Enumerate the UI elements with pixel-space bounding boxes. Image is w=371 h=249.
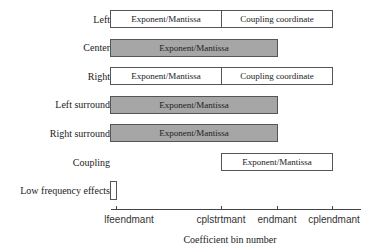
row-label-left-surround: Left surround [55, 95, 110, 114]
tick-endmant [277, 206, 278, 210]
left-coupling-coord-block: Coupling coordinate [221, 10, 333, 28]
tick-label-lfeendmant: lfeendmant [104, 214, 153, 225]
tick-label-cplendmant: cplendmant [308, 214, 360, 225]
row-label-right: Right [88, 67, 110, 86]
tick-lfeendmant [116, 206, 117, 210]
row-label-lfe: Low frequency effects [20, 181, 110, 200]
left-exp-mantissa-block: Exponent/Mantissa [110, 10, 222, 28]
tick-cplendmant [332, 206, 333, 210]
row-label-center: Center [83, 38, 110, 57]
row-label-right-surround: Right surround [50, 124, 110, 143]
row-label-coupling: Coupling [73, 153, 110, 172]
row-label-left: Left [93, 10, 110, 29]
x-axis-line [111, 209, 361, 210]
left-surround-exp-mantissa-block: Exponent/Mantissa [110, 96, 278, 114]
tick-cplstrtmant [221, 206, 222, 210]
lfe-block [110, 181, 117, 200]
x-axis-title: Coefficient bin number [183, 234, 276, 245]
center-exp-mantissa-block: Exponent/Mantissa [110, 39, 278, 57]
tick-label-cplstrtmant: cplstrtmant [197, 214, 246, 225]
right-coupling-coord-block: Coupling coordinate [221, 67, 333, 85]
right-surround-exp-mantissa-block: Exponent/Mantissa [110, 124, 278, 142]
coupling-exp-mantissa-block: Exponent/Mantissa [221, 153, 333, 171]
right-exp-mantissa-block: Exponent/Mantissa [110, 67, 222, 85]
tick-label-endmant: endmant [258, 214, 297, 225]
